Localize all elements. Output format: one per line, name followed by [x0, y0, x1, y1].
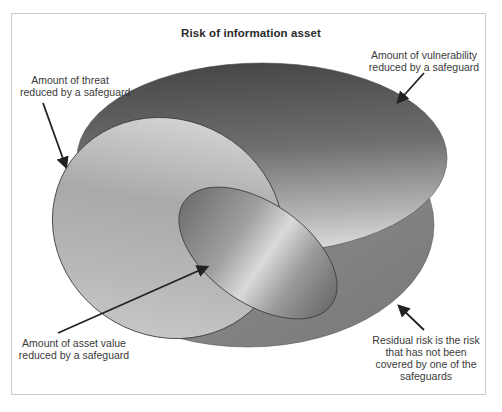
vulnerability-arrow — [398, 73, 424, 102]
residual-label-line-1: Residual risk is the risk — [370, 334, 482, 346]
threat-label-line-2: reduced by a safeguard — [20, 86, 120, 98]
asset-value-label-line-2: reduced by a safeguard — [18, 349, 130, 361]
asset-value-label-line-1: Amount of asset value — [18, 337, 130, 349]
asset-value-label: Amount of asset value reduced by a safeg… — [18, 337, 130, 361]
threat-label-line-1: Amount of threat — [20, 74, 120, 86]
vulnerability-label-line-1: Amount of vulnerability — [368, 49, 480, 61]
residual-label-line-2: that has not been — [370, 346, 482, 358]
residual-label-line-4: safeguards — [370, 370, 482, 382]
vulnerability-label-line-2: reduced by a safeguard — [368, 61, 480, 73]
residual-label-line-3: covered by one of the — [370, 358, 482, 370]
figure-title: Risk of information asset — [0, 27, 502, 39]
residual-risk-label: Residual risk is the risk that has not b… — [370, 334, 482, 382]
threat-arrow — [43, 103, 66, 167]
residual-arrow — [399, 306, 424, 330]
vulnerability-label: Amount of vulnerability reduced by a saf… — [368, 49, 480, 73]
threat-label: Amount of threat reduced by a safeguard — [20, 74, 120, 98]
